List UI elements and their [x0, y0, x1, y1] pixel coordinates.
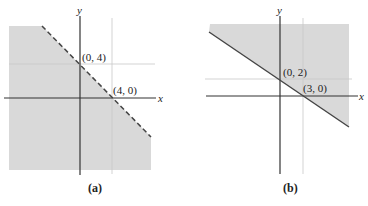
- x-axis-label-b: x: [358, 90, 364, 102]
- point-label-0-4: (0, 4): [82, 51, 106, 64]
- caption-a: (a): [88, 181, 102, 195]
- graph-b: y x (0, 2) (3, 0) (b): [205, 4, 364, 195]
- graph-a: y x (0, 4) (4, 0) (a): [4, 4, 163, 195]
- shaded-region-b: [209, 24, 349, 127]
- x-axis-label-a: x: [157, 92, 163, 104]
- y-axis-label-b: y: [276, 4, 282, 16]
- figure-canvas: y x (0, 4) (4, 0) (a) y x (0, 2) (3, 0) …: [0, 0, 368, 206]
- y-axis-label-a: y: [76, 4, 82, 16]
- point-label-4-0: (4, 0): [113, 84, 137, 97]
- caption-b: (b): [283, 181, 298, 195]
- point-label-0-2: (0, 2): [283, 66, 307, 79]
- point-label-3-0: (3, 0): [303, 82, 327, 95]
